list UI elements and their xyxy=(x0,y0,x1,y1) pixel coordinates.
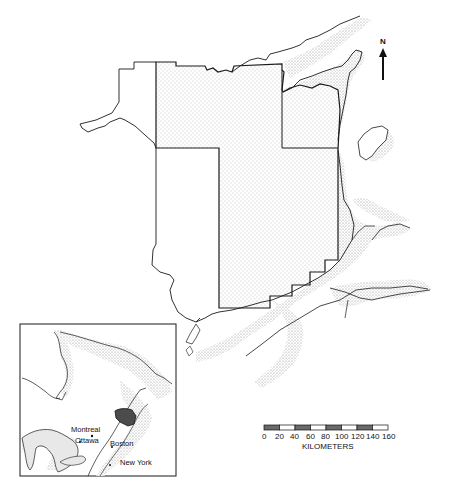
scale-bar: 0 20 40 60 80 100 120 140 160 KILOMETERS xyxy=(262,425,396,451)
label-new-york: New York xyxy=(120,458,152,467)
north-arrow-icon xyxy=(379,48,387,57)
scale-tick-100: 100 xyxy=(335,432,349,441)
scale-tick-40: 40 xyxy=(290,432,299,441)
scale-tick-60: 60 xyxy=(306,432,315,441)
west-boundary xyxy=(152,148,200,322)
label-boston: Boston xyxy=(110,439,133,448)
map-canvas: N Montreal Ottawa Boston New York xyxy=(0,0,451,492)
scale-tick-80: 80 xyxy=(321,432,330,441)
scale-tick-20: 20 xyxy=(275,432,284,441)
north-arrow: N xyxy=(379,37,387,80)
label-ottawa: Ottawa xyxy=(75,436,100,445)
scale-tick-120: 120 xyxy=(351,432,365,441)
scale-unit-label: KILOMETERS xyxy=(302,442,354,451)
study-area-polygon xyxy=(156,62,340,308)
study-area xyxy=(156,62,340,308)
north-label: N xyxy=(380,37,386,46)
left-protrusion-outline xyxy=(80,62,156,148)
label-montreal: Montreal xyxy=(71,425,101,434)
scale-tick-140: 140 xyxy=(366,432,380,441)
inset-map: Montreal Ottawa Boston New York xyxy=(20,324,176,476)
scale-tick-160: 160 xyxy=(382,432,396,441)
city-dot-new-york xyxy=(109,464,111,466)
scale-tick-0: 0 xyxy=(262,432,267,441)
